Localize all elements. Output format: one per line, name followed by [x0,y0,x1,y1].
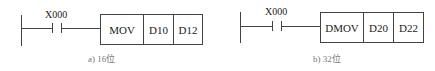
contact-label: X000 [45,9,67,20]
instruction-box: DMOV D20 D22 [320,12,424,43]
contact-label: X000 [265,6,287,17]
contact-left-bar [52,23,53,33]
rung-wire [281,26,320,27]
operand-source: D10 [143,15,173,44]
operand-destination: D12 [173,15,202,44]
instruction-cell: MOV [101,15,143,44]
power-rail [21,15,22,46]
rung-wire [61,28,100,29]
power-rail [240,12,241,43]
caption: a) 16位 [88,52,115,65]
instruction-cell: DMOV [321,13,363,42]
rung-wire [240,26,272,27]
caption: b) 32位 [313,52,341,65]
contact-left-bar [272,21,273,31]
operand-source: D20 [363,13,393,42]
rung-wire [21,28,52,29]
operand-destination: D22 [393,13,423,42]
instruction-box: MOV D10 D12 [100,14,203,45]
